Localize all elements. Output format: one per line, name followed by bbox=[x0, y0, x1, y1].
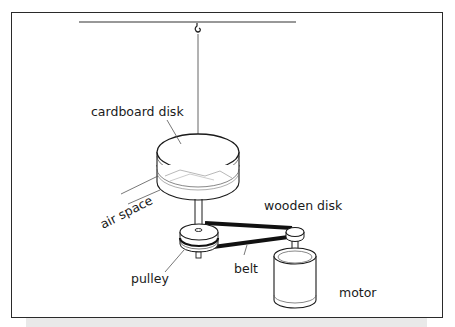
label-pulley: pulley bbox=[131, 271, 169, 286]
label-air-space: air space bbox=[98, 192, 156, 231]
label-cardboard-disk: cardboard disk bbox=[91, 104, 184, 119]
hook-icon bbox=[195, 23, 200, 32]
leader-belt bbox=[244, 245, 247, 255]
motor bbox=[274, 248, 316, 308]
label-motor: motor bbox=[339, 285, 377, 300]
leader-pulley bbox=[165, 250, 184, 272]
label-wooden-disk: wooden disk bbox=[264, 198, 343, 213]
leader-air-space-top bbox=[121, 176, 158, 194]
wooden-disk bbox=[157, 165, 239, 200]
apparatus-diagram: cardboard disk air space wooden disk pul… bbox=[0, 0, 455, 327]
pulley bbox=[180, 224, 218, 258]
belt bbox=[205, 223, 296, 247]
label-belt: belt bbox=[234, 261, 258, 276]
